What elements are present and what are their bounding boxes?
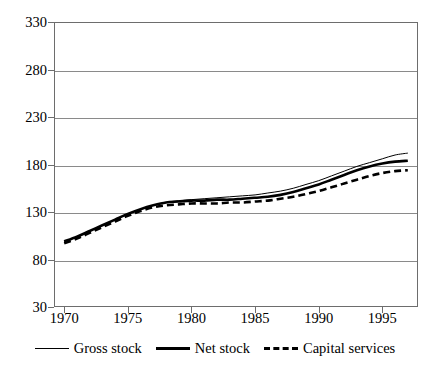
x-tick-mark	[382, 307, 383, 313]
line-chart: 3080130180230280330 19701975198019851990…	[0, 0, 430, 366]
legend-item: Gross stock	[35, 341, 142, 356]
y-tick-mark	[48, 165, 54, 166]
legend-label: Net stock	[195, 341, 250, 356]
x-tick-label: 1995	[368, 311, 397, 326]
y-tick-label: 230	[25, 110, 47, 125]
legend-label: Capital services	[303, 341, 395, 356]
x-tick-mark	[191, 307, 192, 313]
x-tick-label: 1990	[304, 311, 333, 326]
x-tick-label: 1975	[113, 311, 142, 326]
y-tick-mark	[48, 22, 54, 23]
y-tick-label: 130	[25, 205, 47, 220]
y-tick-label: 80	[33, 252, 48, 267]
x-tick-mark	[128, 307, 129, 313]
series-line	[64, 170, 408, 243]
y-tick-label: 330	[25, 15, 47, 30]
y-tick-mark	[48, 307, 54, 308]
series-line	[64, 161, 408, 242]
legend-swatch-solid-thin	[35, 348, 69, 349]
y-tick-mark	[48, 260, 54, 261]
legend-item: Net stock	[156, 341, 250, 356]
legend-swatch-dashed-thick	[264, 347, 298, 350]
series-line	[64, 153, 408, 241]
series-lines	[54, 22, 418, 307]
x-tick-mark	[319, 307, 320, 313]
legend-swatch-solid-thick	[156, 347, 190, 350]
y-tick-mark	[48, 212, 54, 213]
x-tick-label: 1980	[177, 311, 206, 326]
x-tick-label: 1970	[50, 311, 79, 326]
x-tick-mark	[255, 307, 256, 313]
legend-item: Capital services	[264, 341, 395, 356]
x-axis-tick-labels: 197019751980198519901995	[0, 311, 430, 333]
legend-label: Gross stock	[74, 341, 142, 356]
chart-legend: Gross stockNet stockCapital services	[0, 336, 430, 360]
y-tick-mark	[48, 117, 54, 118]
y-tick-label: 280	[25, 62, 47, 77]
x-tick-label: 1985	[241, 311, 270, 326]
y-tick-label: 180	[25, 157, 47, 172]
x-tick-mark	[64, 307, 65, 313]
y-tick-mark	[48, 70, 54, 71]
